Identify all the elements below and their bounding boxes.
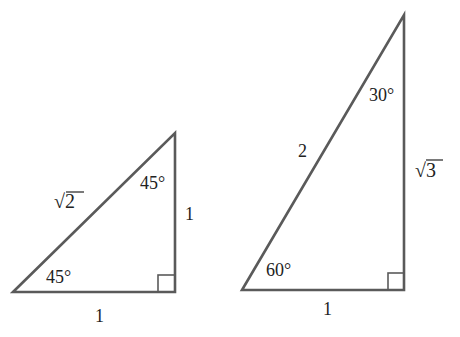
base-label: 1 [95,306,104,326]
triangle-30-60-90: 30° 2 √3 60° 1 [242,15,443,319]
hypotenuse-label: 2 [298,141,307,161]
top-angle-label: 30° [369,85,394,105]
triangle-45-outline [13,133,175,292]
right-angle-marker [158,275,175,292]
vertical-leg-label: √3 [415,159,436,181]
triangles-diagram: √2 45° 1 45° 1 30° 2 √3 60° 1 [0,0,460,337]
hypotenuse-label: √2 [54,190,75,212]
top-angle-label: 45° [140,173,165,193]
triangle-45-45-90: √2 45° 1 45° 1 [13,133,194,326]
right-angle-marker [388,273,404,290]
bottom-angle-label: 60° [266,260,291,280]
base-label: 1 [323,299,332,319]
vertical-leg-label: 1 [185,204,194,224]
bottom-angle-label: 45° [46,267,71,287]
triangle-30-outline [242,15,404,290]
